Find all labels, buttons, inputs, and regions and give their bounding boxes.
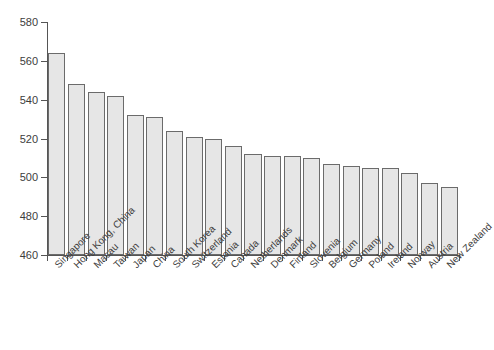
bar <box>244 154 261 255</box>
bar <box>441 187 458 255</box>
bar <box>284 156 301 255</box>
bar <box>303 158 320 255</box>
y-axis-labels: 460480500520540560580 <box>0 0 38 350</box>
bar <box>88 92 105 255</box>
x-tick-mark <box>439 256 440 261</box>
bar <box>205 139 222 256</box>
x-tick-mark <box>145 256 146 261</box>
y-tick-label: 560 <box>4 56 38 67</box>
bar <box>362 168 379 255</box>
bar <box>48 53 65 255</box>
x-tick-mark <box>322 256 323 261</box>
x-tick-mark <box>125 256 126 261</box>
bar <box>107 96 124 255</box>
x-axis-line <box>47 255 460 256</box>
bar <box>146 117 163 255</box>
x-tick-mark <box>165 256 166 261</box>
y-tick-label: 480 <box>4 211 38 222</box>
x-tick-mark <box>106 256 107 261</box>
y-tick-label: 460 <box>4 250 38 261</box>
bar <box>186 137 203 255</box>
x-tick-mark <box>67 256 68 261</box>
y-tick-label: 540 <box>4 95 38 106</box>
x-tick-mark <box>263 256 264 261</box>
y-tick-label: 500 <box>4 172 38 183</box>
x-tick-mark <box>420 256 421 261</box>
x-tick-mark <box>341 256 342 261</box>
bar <box>343 166 360 255</box>
bar <box>382 168 399 255</box>
x-tick-mark <box>361 256 362 261</box>
bar <box>264 156 281 255</box>
bar <box>225 146 242 255</box>
x-tick-mark <box>381 256 382 261</box>
bar <box>421 183 438 255</box>
x-tick-mark <box>47 256 48 261</box>
x-tick-mark <box>224 256 225 261</box>
bar <box>323 164 340 255</box>
x-tick-mark <box>243 256 244 261</box>
bar <box>401 173 418 255</box>
y-tick-label: 580 <box>4 17 38 28</box>
x-tick-mark <box>184 256 185 261</box>
plot-area <box>47 22 459 255</box>
x-tick-mark <box>400 256 401 261</box>
x-tick-mark <box>302 256 303 261</box>
bar <box>68 84 85 255</box>
bar <box>127 115 144 255</box>
x-tick-mark <box>204 256 205 261</box>
y-tick-label: 520 <box>4 134 38 145</box>
x-tick-mark <box>282 256 283 261</box>
x-tick-mark <box>86 256 87 261</box>
x-tick-mark <box>459 256 460 261</box>
bar <box>166 131 183 255</box>
